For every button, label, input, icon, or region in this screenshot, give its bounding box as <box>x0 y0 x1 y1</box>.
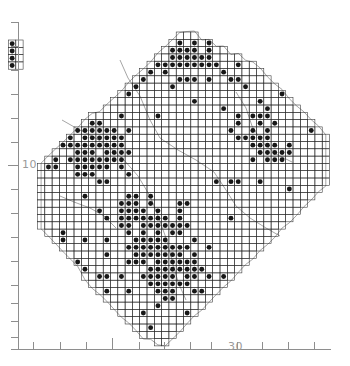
grid-cell <box>315 134 322 141</box>
grid-cell <box>264 222 271 229</box>
grid-cell <box>286 215 293 222</box>
grid-cell <box>220 76 227 83</box>
grid-cell <box>257 193 264 200</box>
occupied-cell-marker <box>250 135 255 140</box>
grid-cell <box>315 171 322 178</box>
grid-cell <box>111 193 118 200</box>
occupied-cell-marker <box>229 216 234 221</box>
grid-cell <box>59 185 66 192</box>
grid-cell <box>154 317 161 324</box>
grid-cell <box>242 163 249 170</box>
occupied-cell-marker <box>83 267 88 272</box>
occupied-cell-marker <box>119 165 124 170</box>
grid-cell <box>286 207 293 214</box>
grid-cell <box>59 156 66 163</box>
occupied-cell-marker <box>177 55 182 60</box>
grid-cell <box>103 120 110 127</box>
grid-cell <box>111 266 118 273</box>
grid-cell <box>205 98 212 105</box>
grid-cell <box>132 120 139 127</box>
grid-cell <box>300 171 307 178</box>
grid-cell <box>300 156 307 163</box>
grid-cell <box>140 156 147 163</box>
occupied-cell-marker <box>177 208 182 213</box>
grid-cell <box>191 280 198 287</box>
grid-cell <box>147 229 154 236</box>
grid-cell <box>242 229 249 236</box>
grid-cell <box>242 207 249 214</box>
occupied-cell-marker <box>199 289 204 294</box>
grid-cell <box>235 171 242 178</box>
grid-cell <box>169 120 176 127</box>
occupied-cell-marker <box>148 70 153 75</box>
occupied-cell-marker <box>126 201 131 206</box>
grid-cell <box>278 207 285 214</box>
grid-cell <box>169 134 176 141</box>
grid-cell <box>147 309 154 316</box>
grid-cell <box>154 156 161 163</box>
grid-cell <box>220 236 227 243</box>
occupied-cell-marker <box>75 150 80 155</box>
grid-cell <box>184 90 191 97</box>
grid-cell <box>132 76 139 83</box>
grid-cell <box>191 207 198 214</box>
grid-cell <box>227 142 234 149</box>
grid-cell <box>81 251 88 258</box>
occupied-cell-marker <box>90 150 95 155</box>
occupied-cell-marker <box>75 260 80 265</box>
grid-cell <box>154 178 161 185</box>
grid-cell <box>205 193 212 200</box>
grid-cell <box>176 288 183 295</box>
grid-cell <box>271 105 278 112</box>
grid-cell <box>286 105 293 112</box>
grid-cell <box>220 229 227 236</box>
grid-cell <box>162 163 169 170</box>
grid-cell <box>147 156 154 163</box>
occupied-cell-marker <box>83 165 88 170</box>
grid-cell <box>300 120 307 127</box>
grid-cell <box>308 178 315 185</box>
grid-cell <box>278 185 285 192</box>
occupied-cell-marker <box>156 238 161 243</box>
grid-cell <box>205 215 212 222</box>
grid-cell <box>220 127 227 134</box>
grid-cell <box>286 127 293 134</box>
occupied-cell-marker <box>156 230 161 235</box>
occupied-cell-marker <box>156 252 161 257</box>
grid-cell <box>235 200 242 207</box>
grid-cell <box>205 222 212 229</box>
grid-cell <box>213 156 220 163</box>
grid-cell <box>154 98 161 105</box>
grid-cell <box>198 105 205 112</box>
grid-cell <box>205 105 212 112</box>
grid-cell <box>162 47 169 54</box>
grid-cell <box>52 215 59 222</box>
grid-cell <box>308 185 315 192</box>
grid-cell <box>191 229 198 236</box>
y-axis-tick <box>11 321 19 322</box>
grid-cell <box>191 120 198 127</box>
grid-cell <box>74 134 81 141</box>
grid-cell <box>169 142 176 149</box>
grid-cell <box>111 273 118 280</box>
grid-cell <box>198 83 205 90</box>
grid-cell <box>271 127 278 134</box>
occupied-cell-marker <box>221 70 226 75</box>
grid-cell <box>249 178 256 185</box>
grid-cell <box>154 324 161 331</box>
grid-cell <box>176 69 183 76</box>
occupied-cell-marker <box>185 260 190 265</box>
grid-cell <box>184 302 191 309</box>
grid-cell <box>227 69 234 76</box>
occupied-cell-marker <box>83 157 88 162</box>
grid-cell <box>45 215 52 222</box>
occupied-cell-marker <box>192 267 197 272</box>
occupied-cell-marker <box>170 296 175 301</box>
grid-cell <box>111 98 118 105</box>
grid-cell <box>140 163 147 170</box>
grid-cell <box>198 142 205 149</box>
grid-cell <box>89 222 96 229</box>
inset-occupied-cell-marker <box>10 63 15 68</box>
grid-cell <box>96 229 103 236</box>
occupied-cell-marker <box>265 114 270 119</box>
